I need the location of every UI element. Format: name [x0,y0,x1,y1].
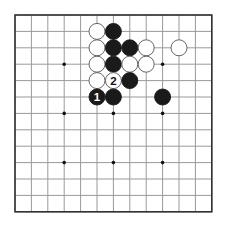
white-stone [122,56,138,72]
move-number-label: 2 [110,75,116,87]
star-point [112,112,116,116]
star-point [161,112,165,116]
go-board: 21 [0,0,227,226]
star-point [62,161,66,165]
black-stone [122,73,138,89]
star-point [62,62,66,66]
black-stone [105,56,121,72]
black-stone [155,89,171,105]
star-point [62,112,66,116]
white-stone [138,40,154,56]
white-stone [89,40,105,56]
white-stone [89,56,105,72]
black-stone [122,40,138,56]
white-stone [171,40,187,56]
star-point [161,161,165,165]
black-stone [105,23,121,39]
black-stone: 1 [89,89,105,105]
black-stone [105,40,121,56]
white-stone: 2 [105,73,121,89]
star-point [161,62,165,66]
go-board-diagram: 21 [0,0,227,226]
white-stone [138,56,154,72]
star-point [112,161,116,165]
black-stone [105,89,121,105]
white-stone [89,23,105,39]
white-stone [89,73,105,89]
move-number-label: 1 [94,91,101,103]
